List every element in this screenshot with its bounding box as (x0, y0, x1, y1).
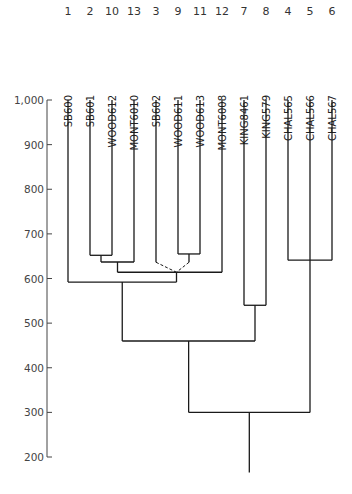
leaf-index: 10 (105, 5, 119, 18)
y-tick-label: 700 (24, 228, 44, 240)
y-tick-label: 1,000 (14, 94, 44, 106)
dendrogram-chart: 1,000900800700600500400300200 1SB6002SB6… (0, 0, 352, 494)
y-tick-label: 800 (24, 183, 44, 195)
leaf-index: 5 (307, 5, 314, 18)
dendrogram-tree (68, 100, 332, 473)
leaf-index: 3 (153, 5, 160, 18)
leaf-index: 13 (127, 5, 141, 18)
leaf-index: 12 (215, 5, 229, 18)
leaf-index: 11 (193, 5, 207, 18)
leaf-index: 6 (329, 5, 336, 18)
leaf-index: 2 (87, 5, 94, 18)
y-tick-label: 900 (24, 139, 44, 151)
leaf-index: 1 (65, 5, 72, 18)
dashed-branch (156, 262, 177, 272)
y-tick-label: 500 (24, 317, 44, 329)
dashed-branch (177, 262, 190, 272)
y-tick-label: 400 (24, 362, 44, 374)
leaf-index: 4 (285, 5, 292, 18)
y-tick-label: 200 (24, 451, 44, 463)
leaf-index: 7 (241, 5, 248, 18)
leaf-index: 9 (175, 5, 182, 18)
y-tick-label: 600 (24, 273, 44, 285)
y-axis: 1,000900800700600500400300200 (14, 94, 52, 463)
leaf-index: 8 (263, 5, 270, 18)
y-tick-label: 300 (24, 406, 44, 418)
